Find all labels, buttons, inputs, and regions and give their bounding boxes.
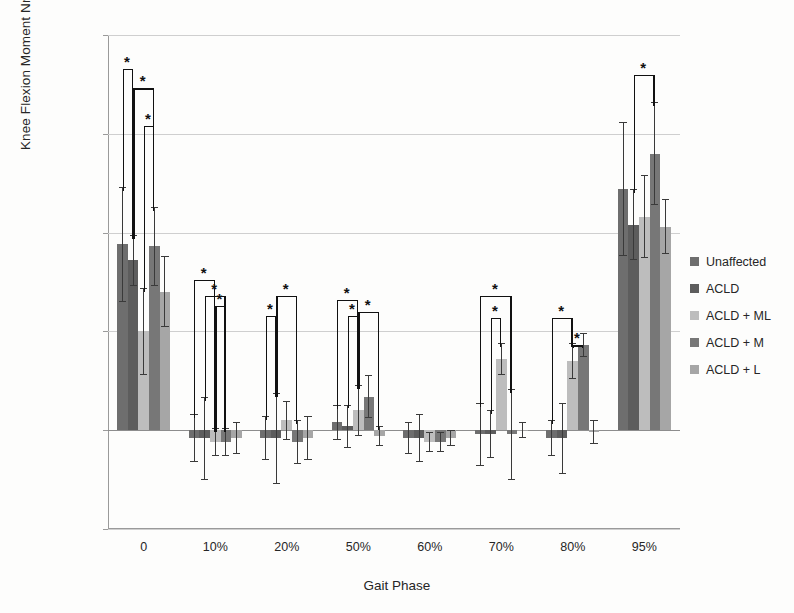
error-bar bbox=[630, 189, 637, 260]
error-bar bbox=[130, 235, 137, 286]
error-bar bbox=[447, 430, 454, 446]
significance-star: * bbox=[217, 291, 223, 306]
error-bar bbox=[498, 343, 505, 375]
gridline bbox=[108, 35, 680, 36]
significance-star: * bbox=[145, 111, 151, 126]
error-bar bbox=[119, 187, 126, 302]
significance-star: * bbox=[283, 281, 289, 296]
y-tick-mark bbox=[103, 529, 108, 530]
x-tick-label: 95% bbox=[609, 540, 681, 554]
error-bar bbox=[262, 416, 269, 459]
error-bar bbox=[662, 199, 669, 254]
bar bbox=[660, 227, 671, 431]
y-axis-title: Knee Flexion Moment Nm/Kg·m bbox=[18, 0, 33, 150]
error-bar bbox=[201, 397, 208, 480]
error-bar bbox=[651, 102, 658, 205]
x-tick-label: 60% bbox=[394, 540, 466, 554]
error-bar bbox=[294, 420, 301, 463]
legend-label: ACLD + L bbox=[706, 363, 761, 377]
error-bar bbox=[365, 375, 372, 418]
y-tick-mark bbox=[103, 331, 108, 332]
error-bar bbox=[140, 288, 147, 375]
plot-area: 0.20.150.10.050-0.05 **************** 01… bbox=[108, 35, 680, 529]
significance-star: * bbox=[640, 60, 646, 75]
error-bar bbox=[641, 175, 648, 258]
x-axis-title: Gait Phase bbox=[0, 578, 794, 593]
error-bar bbox=[222, 428, 229, 456]
bar bbox=[578, 345, 589, 430]
y-axis-line bbox=[108, 35, 109, 529]
error-bar bbox=[333, 405, 340, 441]
error-bar bbox=[283, 401, 290, 441]
error-bar bbox=[487, 410, 494, 457]
significance-star: * bbox=[365, 297, 371, 312]
legend-swatch bbox=[690, 311, 699, 320]
gridline bbox=[108, 233, 680, 234]
error-bar bbox=[233, 422, 240, 454]
error-bar bbox=[426, 432, 433, 452]
legend-label: ACLD + M bbox=[706, 336, 764, 350]
significance-star: * bbox=[574, 330, 580, 345]
y-tick-mark bbox=[103, 134, 108, 135]
significance-star: * bbox=[558, 303, 564, 318]
significance-star: * bbox=[492, 303, 498, 318]
significance-star: * bbox=[344, 285, 350, 300]
significance-star: * bbox=[267, 301, 273, 316]
x-tick-label: 10% bbox=[180, 540, 252, 554]
x-tick-label: 0 bbox=[108, 540, 180, 554]
error-bar bbox=[355, 385, 362, 436]
error-bar bbox=[416, 414, 423, 461]
error-bar bbox=[344, 405, 351, 448]
error-bar bbox=[151, 207, 158, 286]
legend-item: ACLD bbox=[690, 275, 771, 302]
error-bar bbox=[590, 420, 597, 444]
legend-label: Unaffected bbox=[706, 255, 766, 269]
x-tick-label: 20% bbox=[251, 540, 323, 554]
legend-swatch bbox=[690, 284, 699, 293]
gridline bbox=[108, 529, 680, 530]
x-tick-label: 50% bbox=[323, 540, 395, 554]
error-bar bbox=[190, 414, 197, 461]
y-axis-title-text: Knee Flexion Moment Nm/Kg·m bbox=[18, 0, 33, 150]
error-bar bbox=[519, 422, 526, 438]
significance-star: * bbox=[124, 54, 130, 69]
x-tick-label: 80% bbox=[537, 540, 609, 554]
error-bar bbox=[405, 422, 412, 454]
error-bar bbox=[559, 403, 566, 474]
error-bar bbox=[619, 122, 626, 256]
error-bar bbox=[376, 426, 383, 446]
legend-swatch bbox=[690, 365, 699, 374]
error-bar bbox=[161, 256, 168, 327]
error-bar bbox=[548, 420, 555, 456]
chart-legend: UnaffectedACLDACLD + MLACLD + MACLD + L bbox=[690, 248, 771, 383]
legend-label: ACLD + ML bbox=[706, 309, 771, 323]
legend-item: ACLD + L bbox=[690, 356, 771, 383]
legend-label: ACLD bbox=[706, 282, 739, 296]
legend-item: Unaffected bbox=[690, 248, 771, 275]
error-bar bbox=[569, 343, 576, 379]
legend-item: ACLD + M bbox=[690, 329, 771, 356]
significance-star: * bbox=[201, 265, 207, 280]
y-tick-mark bbox=[103, 430, 108, 431]
error-bar bbox=[273, 393, 280, 484]
legend-swatch bbox=[690, 257, 699, 266]
chart-page: Knee Flexion Moment Nm/Kg·m 0.20.150.10.… bbox=[0, 0, 794, 613]
legend-swatch bbox=[690, 338, 699, 347]
significance-star: * bbox=[349, 301, 355, 316]
y-tick-mark bbox=[103, 233, 108, 234]
significance-star: * bbox=[492, 281, 498, 296]
error-bar bbox=[476, 403, 483, 466]
x-tick-label: 70% bbox=[466, 540, 538, 554]
significance-star: * bbox=[140, 73, 146, 88]
error-bar bbox=[437, 432, 444, 452]
error-bar bbox=[508, 389, 515, 480]
gridline bbox=[108, 134, 680, 135]
y-tick-mark bbox=[103, 35, 108, 36]
error-bar bbox=[212, 428, 219, 456]
legend-item: ACLD + ML bbox=[690, 302, 771, 329]
error-bar bbox=[304, 416, 311, 459]
